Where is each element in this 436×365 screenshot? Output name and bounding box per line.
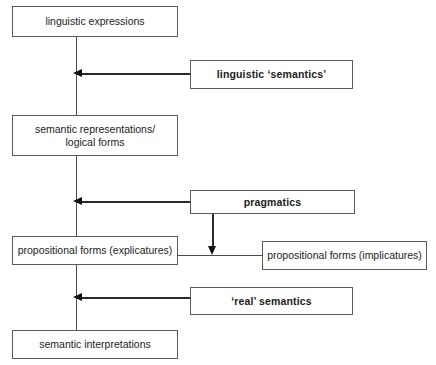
arrowhead-implicatures <box>208 246 216 255</box>
stage-label-propositional-forms-explicatures: propositional forms (explicatures) <box>14 244 177 257</box>
stage-label-semantic-representations: semantic representations/ logical forms <box>31 123 159 149</box>
flow-diagram: linguistic expressions semantic represen… <box>0 0 436 365</box>
arrowhead-pragmatics <box>73 197 82 205</box>
process-label-real-semantics: ‘real’ semantics <box>227 295 316 308</box>
branch-box-propositional-forms-implicatures[interactable]: propositional forms (implicatures) <box>262 241 427 270</box>
stage-box-semantic-interpretations[interactable]: semantic interpretations <box>12 330 178 359</box>
stage-box-semantic-representations[interactable]: semantic representations/ logical forms <box>12 115 178 156</box>
connector-pragmatics-to-implicatures <box>212 213 214 246</box>
stage-label-linguistic-expressions: linguistic expressions <box>41 15 148 28</box>
process-box-linguistic-semantics[interactable]: linguistic ‘semantics’ <box>190 60 353 89</box>
process-box-real-semantics[interactable]: ‘real’ semantics <box>190 287 353 315</box>
process-label-linguistic-semantics: linguistic ‘semantics’ <box>213 68 331 81</box>
connector-real-semantics <box>80 297 190 299</box>
stage-box-linguistic-expressions[interactable]: linguistic expressions <box>12 6 178 37</box>
arrowhead-real-semantics <box>73 293 82 301</box>
connector-explicatures-to-implicatures <box>178 255 263 256</box>
stage-label-semantic-interpretations: semantic interpretations <box>35 338 154 351</box>
arrowhead-linguistic-semantics <box>73 69 82 77</box>
branch-label-propositional-forms-implicatures: propositional forms (implicatures) <box>263 249 426 262</box>
connector-pragmatics <box>80 201 190 203</box>
process-box-pragmatics[interactable]: pragmatics <box>190 190 355 214</box>
stage-box-propositional-forms-explicatures[interactable]: propositional forms (explicatures) <box>12 236 178 265</box>
connector-linguistic-semantics <box>80 73 190 75</box>
spine-segment-representations-to-explicatures <box>76 155 77 236</box>
process-label-pragmatics: pragmatics <box>240 196 306 209</box>
